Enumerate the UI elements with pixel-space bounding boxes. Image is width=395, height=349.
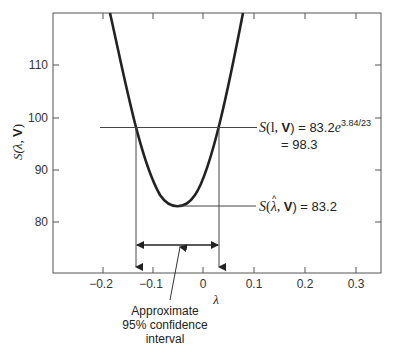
x-tick-neg0.2: −0.2 xyxy=(89,277,113,291)
x-tick-0.1: 0.1 xyxy=(246,277,263,291)
x-axis-label: λ xyxy=(212,292,219,307)
y-tick-80: 80 xyxy=(35,215,49,229)
y-tick-labels: 110 100 90 80 xyxy=(28,58,48,229)
chart: 110 100 90 80 −0.2 −0.1 0 0.1 0.2 0.3 λ … xyxy=(0,0,395,349)
svg-text:Approximate: Approximate xyxy=(131,304,199,318)
svg-text:95% confidence: 95% confidence xyxy=(122,318,208,332)
minimum-annotation: S(λ, V) = 83.2 xyxy=(259,199,337,215)
threshold-value: = 98.3 xyxy=(281,137,318,152)
y-axis-label: S(λ, V) xyxy=(10,124,25,160)
x-tick-0.2: 0.2 xyxy=(297,277,314,291)
s-lambda-curve xyxy=(110,13,243,206)
y-tick-90: 90 xyxy=(35,163,49,177)
plot-frame xyxy=(53,13,381,273)
y-tick-100: 100 xyxy=(28,111,48,125)
y-tick-110: 110 xyxy=(29,58,48,72)
x-tick-0.3: 0.3 xyxy=(348,277,365,291)
svg-text:interval: interval xyxy=(146,332,185,346)
x-tick-labels: −0.2 −0.1 0 0.1 0.2 0.3 xyxy=(89,277,365,291)
x-tick-0: 0 xyxy=(200,277,207,291)
confidence-interval-note: Approximate 95% confidence interval xyxy=(122,304,208,346)
threshold-annotation: S(l, V) = 83.2e3.84/23 xyxy=(259,118,371,136)
x-tick-neg0.1: −0.1 xyxy=(139,277,163,291)
